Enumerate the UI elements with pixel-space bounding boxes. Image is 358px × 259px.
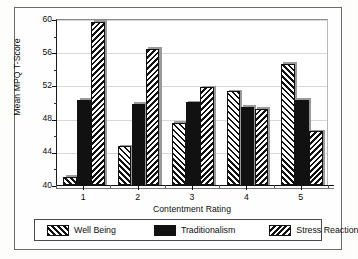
bar <box>91 22 105 186</box>
x-axis-tick <box>192 185 193 190</box>
bar <box>241 107 255 185</box>
x-axis-minor-tick <box>165 185 166 188</box>
legend-swatch-icon-well-being <box>47 225 69 236</box>
plot-area <box>56 19 328 185</box>
y-axis-minor-tick <box>54 37 57 38</box>
y-axis-tick-label: 52 <box>26 81 52 90</box>
bar <box>227 91 241 185</box>
y-axis-tick-label: 56 <box>26 48 52 57</box>
x-axis-tick-label: 3 <box>180 192 204 202</box>
x-axis-tick-label: 1 <box>71 192 95 202</box>
y-axis-major-tick <box>52 86 57 87</box>
y-axis-tick-label: 40 <box>26 181 52 190</box>
bar <box>200 87 214 185</box>
y-axis-minor-tick <box>54 136 57 137</box>
legend-swatch-icon-stress-reaction <box>269 225 291 236</box>
bar <box>63 177 77 185</box>
y-axis-labels: 404448525660 <box>22 19 52 185</box>
x-axis-line-shadow <box>56 188 334 189</box>
bar <box>309 131 323 185</box>
bar <box>295 100 309 185</box>
y-axis-minor-tick <box>54 169 57 170</box>
x-axis-tick <box>301 185 302 190</box>
chart-legend: Well Being Traditionalism Stress Reactio… <box>34 219 322 241</box>
x-axis-tick <box>246 185 247 190</box>
bar <box>132 104 146 185</box>
x-axis-minor-tick <box>219 185 220 188</box>
bar <box>146 49 160 185</box>
legend-item-stress-reaction: Stress Reaction <box>269 220 358 240</box>
bar <box>255 109 269 185</box>
x-axis-minor-tick <box>274 185 275 188</box>
bar <box>281 64 295 185</box>
y-axis-major-tick <box>52 20 57 21</box>
legend-item-well-being: Well Being <box>47 220 116 240</box>
x-axis-tick-label: 2 <box>126 192 150 202</box>
legend-label: Well Being <box>74 225 116 235</box>
bar <box>118 146 132 185</box>
x-axis-line <box>56 185 334 186</box>
x-axis-tick <box>83 185 84 190</box>
y-axis-major-tick <box>52 120 57 121</box>
bar <box>172 123 186 185</box>
bar <box>186 102 200 185</box>
legend-swatch-icon-traditionalism <box>154 225 176 236</box>
x-axis-minor-tick <box>328 185 329 188</box>
x-axis-tick-label: 5 <box>289 192 313 202</box>
legend-item-traditionalism: Traditionalism <box>154 220 235 240</box>
y-axis-major-tick <box>52 53 57 54</box>
x-axis-tick-label: 4 <box>234 192 258 202</box>
y-axis-minor-tick <box>54 103 57 104</box>
y-axis-major-tick <box>52 153 57 154</box>
y-axis-tick-label: 44 <box>26 147 52 156</box>
y-axis-minor-tick <box>54 70 57 71</box>
x-axis-tick <box>138 185 139 190</box>
y-axis-tick-label: 60 <box>26 15 52 24</box>
legend-label: Stress Reaction <box>296 225 358 235</box>
x-axis-minor-tick <box>110 185 111 188</box>
legend-label: Traditionalism <box>181 225 235 235</box>
x-axis-minor-tick <box>56 185 57 188</box>
y-axis-tick-label: 48 <box>26 114 52 123</box>
y-axis-title: Mean MPQ T-Score <box>12 17 22 137</box>
bar <box>77 100 91 185</box>
x-axis-title: Contentment Rating <box>56 204 328 214</box>
